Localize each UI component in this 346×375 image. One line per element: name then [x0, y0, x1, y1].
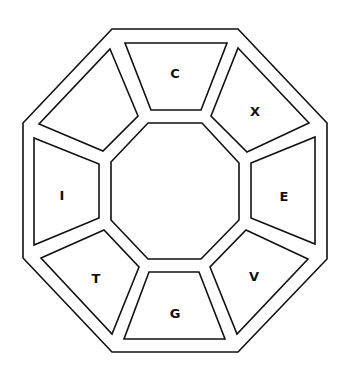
panel-label-left: I — [60, 188, 65, 203]
inner-octagon — [111, 123, 239, 259]
octagon-diagram-svg: CXEVGTI — [0, 0, 346, 375]
panel-label-right: E — [280, 189, 289, 204]
panel-label-bottom-right: V — [249, 269, 259, 284]
octagon-diagram: CXEVGTI — [0, 0, 346, 375]
panel-label-top-right: X — [250, 104, 260, 119]
panel-label-bottom: G — [170, 306, 181, 321]
panel-label-bottom-left: T — [92, 271, 101, 286]
panel-label-top: C — [170, 66, 180, 81]
